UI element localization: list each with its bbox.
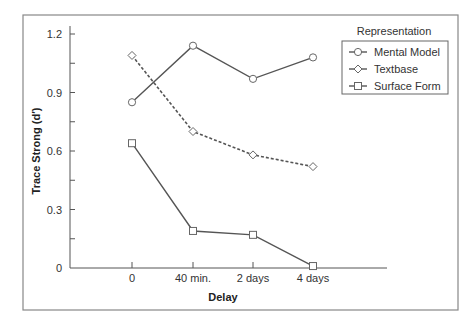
line-chart: 00.30.60.91.2040 min.2 days4 days Trace … — [0, 0, 474, 325]
x-axis-title: Delay — [208, 291, 238, 303]
diamond-marker-icon — [189, 128, 197, 136]
square-marker-icon — [190, 227, 197, 234]
series-mental-model — [128, 42, 316, 106]
circle-marker-icon — [128, 99, 135, 106]
square-marker-icon — [250, 231, 257, 238]
series-group — [128, 42, 317, 269]
x-tick-label: 4 days — [297, 272, 330, 284]
square-marker-icon — [310, 263, 317, 270]
legend-title: Representation — [357, 25, 432, 37]
y-tick-label: 0.9 — [47, 87, 62, 99]
circle-marker-icon — [249, 75, 256, 82]
y-tick-label: 0 — [56, 262, 62, 274]
x-tick-label: 40 min. — [175, 272, 211, 284]
circle-marker-icon — [309, 54, 316, 61]
square-marker-icon — [129, 140, 136, 147]
legend-label: Surface Form — [374, 80, 441, 92]
series-line — [132, 55, 313, 166]
square-marker-icon — [355, 83, 362, 90]
x-tick-label: 0 — [129, 272, 135, 284]
legend: Representation Mental ModelTextbaseSurfa… — [342, 25, 448, 94]
legend-label: Textbase — [374, 63, 418, 75]
series-line — [132, 46, 313, 103]
x-tick-label: 2 days — [237, 272, 270, 284]
series-textbase — [128, 51, 317, 170]
y-tick-label: 1.2 — [47, 28, 62, 40]
diamond-marker-icon — [309, 163, 317, 171]
circle-marker-icon — [354, 48, 361, 55]
legend-label: Mental Model — [374, 46, 440, 58]
circle-marker-icon — [189, 42, 196, 49]
series-surface-form — [129, 140, 317, 270]
y-tick-label: 0.6 — [47, 145, 62, 157]
diamond-marker-icon — [128, 51, 136, 59]
diamond-marker-icon — [249, 151, 257, 159]
y-tick-label: 0.3 — [47, 204, 62, 216]
y-axis-title: Trace Strong (d′) — [30, 107, 42, 194]
axes: 00.30.60.91.2040 min.2 days4 days — [47, 26, 387, 284]
